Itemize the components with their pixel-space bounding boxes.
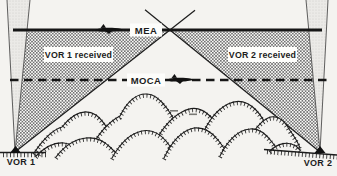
mea-moca-diagram: MEA MOCA VOR 1 received VOR 2 received V… (0, 0, 337, 176)
distant-ridge-dash (189, 114, 197, 116)
vor1-received-label: VOR 1 received (44, 47, 113, 62)
mea-label-text: MEA (135, 25, 157, 36)
vor2-received-label: VOR 2 received (228, 47, 297, 62)
moca-label: MOCA (127, 74, 165, 87)
diagram-canvas: MEA MOCA VOR 1 received VOR 2 received V… (0, 0, 337, 176)
vor2-received-text: VOR 2 received (229, 50, 296, 60)
mea-label: MEA (130, 24, 162, 37)
vor2-label: VOR 2 (304, 158, 333, 168)
moca-label-text: MOCA (131, 75, 162, 86)
vor1-received-text: VOR 1 received (45, 50, 112, 60)
vor1-label: VOR 1 (7, 157, 36, 167)
distant-ridge-dash (170, 110, 178, 112)
